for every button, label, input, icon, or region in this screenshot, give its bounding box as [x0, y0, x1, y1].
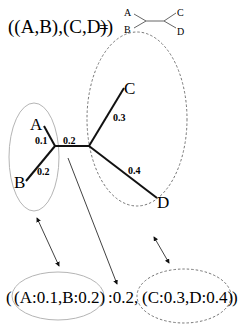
newick-left-group: (A:0.1,B:0.2) — [14, 288, 105, 307]
branch-length-d: 0.4 — [128, 165, 141, 176]
mini-label-b: B — [124, 24, 131, 35]
mini-label-a: A — [124, 7, 132, 18]
internal-branch-arrow — [68, 158, 117, 284]
newick-open-paren: ( — [6, 288, 12, 307]
left-group-arrow — [37, 218, 59, 266]
newick-close-paren: ) — [232, 288, 238, 307]
leaf-label-b: B — [14, 173, 25, 192]
right-group-arrow — [154, 237, 169, 263]
newick-simple-notation: ((A,B),(C,D)) — [8, 16, 113, 38]
mini-label-c: C — [177, 7, 184, 18]
newick-internal-length: :0.2, — [108, 288, 138, 307]
equals-sign: = — [99, 18, 109, 37]
leaf-label-c: C — [124, 79, 135, 98]
branch-length-b: 0.2 — [37, 166, 50, 177]
newick-right-group: (C:0.3,D:0.4) — [142, 288, 233, 307]
mini-tree — [134, 13, 176, 28]
branch-length-internal: 0.2 — [63, 135, 76, 146]
branch-length-c: 0.3 — [113, 112, 126, 123]
leaf-label-a: A — [30, 115, 43, 134]
phylogenetic-tree-diagram: ((A,B),(C,D)) = A B C D A B C D 0.1 0.2 … — [0, 0, 243, 333]
branch-length-a: 0.1 — [35, 135, 48, 146]
leaf-label-d: D — [157, 193, 169, 212]
right-group-ellipse — [87, 32, 187, 206]
mini-label-d: D — [177, 26, 184, 37]
